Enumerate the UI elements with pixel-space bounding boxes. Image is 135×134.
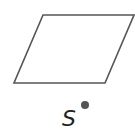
parallelogram <box>14 15 134 83</box>
diagram-canvas: S <box>0 0 135 134</box>
diagram-svg: S <box>0 0 135 134</box>
point-s-label: S <box>62 106 76 131</box>
point-s-dot <box>81 101 89 109</box>
